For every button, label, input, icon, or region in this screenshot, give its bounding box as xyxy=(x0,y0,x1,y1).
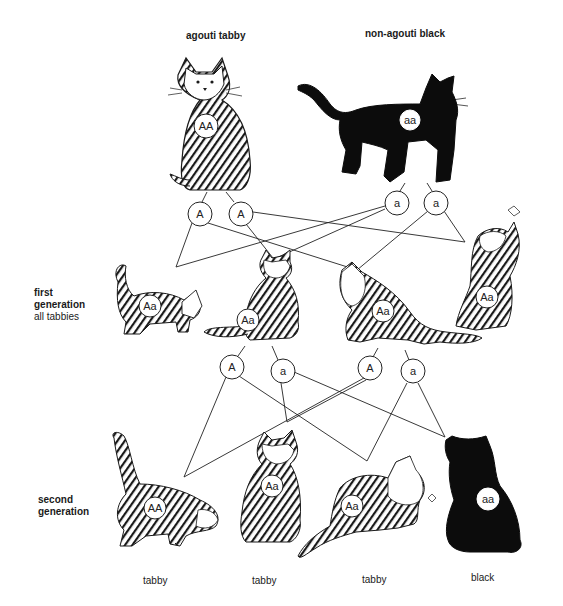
gamete-label: a xyxy=(280,365,287,377)
f1-cat-4 xyxy=(456,206,520,330)
gamete-label: A xyxy=(196,208,204,220)
genotype-f2-3: Aa xyxy=(345,500,359,512)
parent-cross-lines xyxy=(176,206,465,270)
gamete-label: a xyxy=(410,365,417,377)
f1-gamete-2: a xyxy=(271,359,295,383)
inheritance-diagram: AA aa A A a a xyxy=(0,0,563,606)
genotype-parent-right: aa xyxy=(404,114,417,126)
parent-gamete-1: A xyxy=(188,202,212,226)
parent-gamete-4: a xyxy=(424,191,448,215)
genotype-circle-f1-2: Aa xyxy=(237,309,259,331)
gamete-label: A xyxy=(366,362,374,374)
genotype-circle-f2-1: AA xyxy=(144,497,166,519)
gamete-label: a xyxy=(433,197,440,209)
f1-gamete-4: a xyxy=(401,359,425,383)
gamete-label: a xyxy=(394,197,401,209)
genotype-f2-1: AA xyxy=(148,502,163,514)
genotype-circle-parent-right: aa xyxy=(400,110,420,130)
genotype-circle-f1-4: Aa xyxy=(476,286,498,308)
butterfly-icon xyxy=(428,494,436,502)
gamete-label: A xyxy=(228,361,236,373)
genotype-circle-f2-3: Aa xyxy=(341,495,363,517)
butterfly-icon xyxy=(508,206,520,216)
genotype-f1-3: Aa xyxy=(376,305,390,317)
genotype-f2-4: aa xyxy=(482,493,495,505)
genotype-circle-f2-2: Aa xyxy=(261,475,283,497)
genotype-f2-2: Aa xyxy=(265,480,279,492)
f1-cat-3 xyxy=(340,262,482,344)
parent-black-cat xyxy=(298,74,468,182)
f1-gamete-stubs xyxy=(238,346,409,360)
f1-gamete-3: A xyxy=(358,356,382,380)
genotype-circle-f2-4: aa xyxy=(477,488,499,510)
parent-gamete-2: A xyxy=(229,202,253,226)
parent-gamete-3: a xyxy=(385,191,409,215)
f2-cat-1 xyxy=(113,432,218,546)
gamete-label: A xyxy=(237,208,245,220)
genotype-circle-f1-1: Aa xyxy=(139,295,161,317)
f2-cat-3 xyxy=(298,456,436,557)
genotype-f1-2: Aa xyxy=(241,314,255,326)
genotype-circle-parent-left: AA xyxy=(194,114,218,138)
genotype-parent-left: AA xyxy=(199,120,214,132)
genotype-circle-f1-3: Aa xyxy=(372,300,394,322)
f1-gamete-1: A xyxy=(220,355,244,379)
genotype-f1-4: Aa xyxy=(480,291,494,303)
genotype-f1-1: Aa xyxy=(143,300,157,312)
